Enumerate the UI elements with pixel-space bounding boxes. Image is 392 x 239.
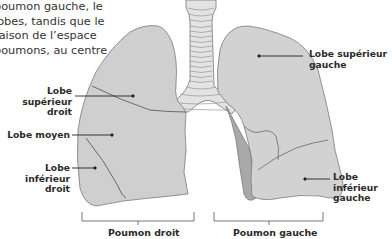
label-right-upper-lobe: Lobe supérieur droit [6,86,72,118]
label-line: Lobe inférieur [333,172,392,193]
label-left-upper-lobe: Lobe supérieur gauche [309,49,387,70]
label-right-middle-lobe: Lobe moyen [6,130,70,141]
caption-right-lung: Poumon droit [108,227,180,238]
label-line: Lobe supérieur [6,86,72,107]
brackets [82,212,323,225]
label-right-lower-lobe: Lobe inférieur droit [6,163,70,195]
label-line: Lobe inférieur [6,163,70,184]
label-line: droit [6,184,70,195]
label-left-lower-lobe: Lobe inférieur gauche [333,172,392,204]
right-lung [77,26,188,206]
label-line: gauche [333,193,392,204]
caption-left-lung: Poumon gauche [233,227,317,238]
label-line: droit [6,107,72,118]
label-line: gauche [309,60,387,71]
label-line: Lobe supérieur [309,49,387,60]
label-line: Lobe moyen [6,130,70,141]
